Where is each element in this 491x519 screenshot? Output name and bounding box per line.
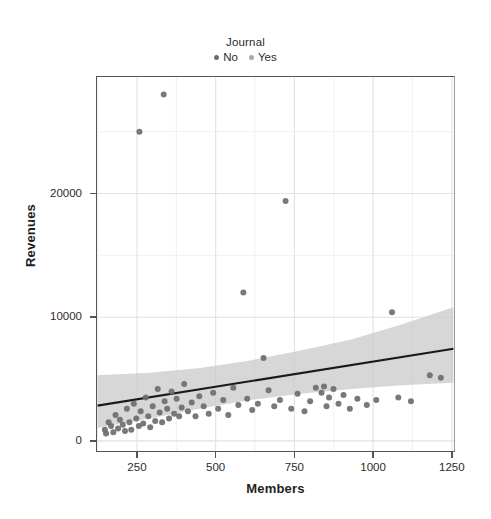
chart-legend: Journal No Yes — [0, 36, 491, 63]
x-tick-label: 1000 — [343, 461, 403, 473]
x-tick-mark — [372, 452, 373, 458]
x-tick-mark — [294, 452, 295, 458]
y-axis-title: Revenues — [23, 186, 38, 286]
legend-label-yes: Yes — [258, 51, 277, 63]
x-tick-label: 1250 — [422, 461, 482, 473]
scatter-plot-figure: Journal No Yes Revenues Members 01000020… — [0, 0, 491, 519]
plot-panel — [96, 76, 455, 452]
x-tick-label: 500 — [186, 461, 246, 473]
x-tick-label: 750 — [264, 461, 324, 473]
legend-item-yes[interactable]: Yes — [249, 51, 277, 63]
y-tick-label: 20000 — [22, 187, 82, 199]
x-tick-mark — [215, 452, 216, 458]
legend-items: No Yes — [0, 51, 491, 63]
legend-dot-no — [214, 55, 219, 60]
x-tick-label: 250 — [107, 461, 167, 473]
legend-label-no: No — [223, 51, 238, 63]
x-axis-title: Members — [96, 481, 455, 496]
legend-dot-yes — [249, 55, 254, 60]
y-tick-label: 0 — [22, 434, 82, 446]
x-tick-mark — [451, 452, 452, 458]
plot-canvas — [96, 76, 455, 452]
legend-title: Journal — [0, 36, 491, 48]
x-tick-mark — [136, 452, 137, 458]
legend-item-no[interactable]: No — [214, 51, 238, 63]
y-tick-label: 10000 — [22, 310, 82, 322]
